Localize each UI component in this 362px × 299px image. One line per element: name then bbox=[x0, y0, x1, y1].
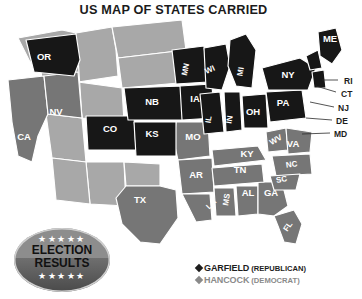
state-label-mo: MO bbox=[185, 131, 200, 142]
badge-stars-bottom: ★★★★★ bbox=[14, 272, 110, 281]
badge-text: ELECTION RESULTS bbox=[18, 244, 106, 269]
election-results-badge: ★★★★★ ELECTION RESULTS ★★★★★ bbox=[14, 228, 110, 292]
state-label-ga: GA bbox=[264, 187, 278, 198]
legend: GARFIELD (REPUBLICAN) HANCOCK (DEMOCRAT) bbox=[196, 262, 306, 286]
state-label-oh: OH bbox=[246, 106, 260, 117]
state-label-al: AL bbox=[242, 187, 255, 198]
state-label-ia: IA bbox=[190, 93, 200, 104]
badge-line-2: RESULTS bbox=[18, 257, 106, 270]
leader-de bbox=[306, 118, 332, 120]
state-label-tx: TX bbox=[134, 194, 147, 205]
state-label-nc: NC bbox=[285, 159, 298, 170]
election-map-figure: US MAP OF STATES CARRIED bbox=[0, 0, 362, 299]
legend-item-garfield: GARFIELD (REPUBLICAN) bbox=[196, 262, 306, 274]
legend-candidate-name: GARFIELD bbox=[204, 263, 249, 273]
state-label-ri: RI bbox=[344, 76, 353, 86]
us-map-svg: ORNVCACONBKSTXIAMNWIMIILINOHPANYMEMOARLA… bbox=[0, 10, 362, 260]
legend-party-label: (REPUBLICAN) bbox=[251, 264, 306, 273]
state-mi bbox=[228, 34, 256, 88]
state-ca bbox=[8, 76, 48, 162]
legend-candidate-name: HANCOCK bbox=[204, 275, 249, 285]
state-label-mi: MI bbox=[235, 66, 245, 76]
state-label-tn: TN bbox=[234, 164, 247, 175]
diamond-marker-icon bbox=[195, 276, 203, 284]
state-in bbox=[224, 92, 242, 132]
state-tx bbox=[116, 186, 178, 244]
state-ok bbox=[124, 162, 160, 186]
legend-party-label: (DEMOCRAT) bbox=[251, 276, 299, 285]
state-label-va: VA bbox=[287, 138, 300, 149]
legend-item-hancock: HANCOCK (DEMOCRAT) bbox=[196, 274, 306, 286]
state-ma bbox=[312, 70, 326, 88]
state-ut bbox=[46, 114, 86, 162]
state-label-ca: CA bbox=[17, 131, 31, 142]
state-ky bbox=[212, 146, 266, 166]
state-az bbox=[52, 158, 90, 204]
state-il bbox=[200, 92, 224, 134]
state-label-or: OR bbox=[37, 51, 51, 62]
state-label-de: DE bbox=[336, 116, 348, 126]
state-label-ct: CT bbox=[341, 89, 353, 99]
state-label-nj: NJ bbox=[338, 103, 349, 113]
diamond-marker-icon bbox=[195, 264, 203, 272]
outside-label-group: RICTNJDEMD bbox=[334, 76, 353, 139]
state-label-me: ME bbox=[323, 33, 337, 44]
state-label-nv: NV bbox=[49, 106, 63, 117]
state-label-ky: KY bbox=[240, 148, 254, 159]
state-label-ar: AR bbox=[189, 169, 203, 180]
us-map: ORNVCACONBKSTXIAMNWIMIILINOHPANYMEMOARLA… bbox=[0, 10, 362, 260]
leader-nj bbox=[310, 102, 334, 107]
state-label-md: MD bbox=[334, 129, 347, 139]
state-label-co: CO bbox=[103, 123, 117, 134]
state-label-nb: NB bbox=[145, 96, 159, 107]
state-label-ks: KS bbox=[145, 128, 158, 139]
state-label-pa: PA bbox=[277, 97, 290, 108]
state-label-ny: NY bbox=[281, 69, 295, 80]
state-or bbox=[26, 34, 80, 76]
